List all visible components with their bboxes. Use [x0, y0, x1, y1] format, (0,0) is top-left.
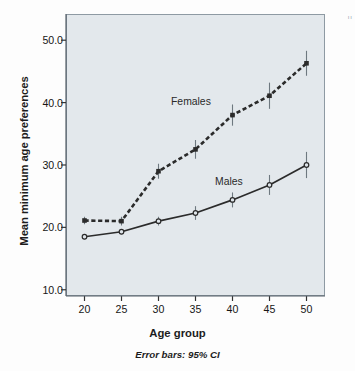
x-tick-label: 20	[65, 303, 105, 315]
series-label-females: Females	[171, 96, 211, 107]
plot-area	[66, 14, 325, 296]
y-tick-label: 30.0	[13, 159, 63, 171]
chart-figure: Mean minimum age preferences Age group E…	[0, 0, 355, 371]
x-tick-label: 50	[287, 303, 327, 315]
chart-caption: Error bars: 95% CI	[0, 349, 355, 360]
x-tick-label: 30	[139, 303, 179, 315]
x-tick-label: 45	[250, 303, 290, 315]
y-tick-label: 50.0	[13, 34, 63, 46]
y-tick-label: 10.0	[13, 284, 63, 296]
corner-artifact: ıı	[348, 14, 353, 20]
y-tick-label: 40.0	[13, 97, 63, 109]
series-label-males: Males	[215, 176, 243, 187]
y-tick-label: 20.0	[13, 221, 63, 233]
x-tick-label: 40	[213, 303, 253, 315]
x-axis-title: Age group	[0, 327, 355, 339]
x-tick-label: 25	[102, 303, 142, 315]
x-tick-label: 35	[176, 303, 216, 315]
